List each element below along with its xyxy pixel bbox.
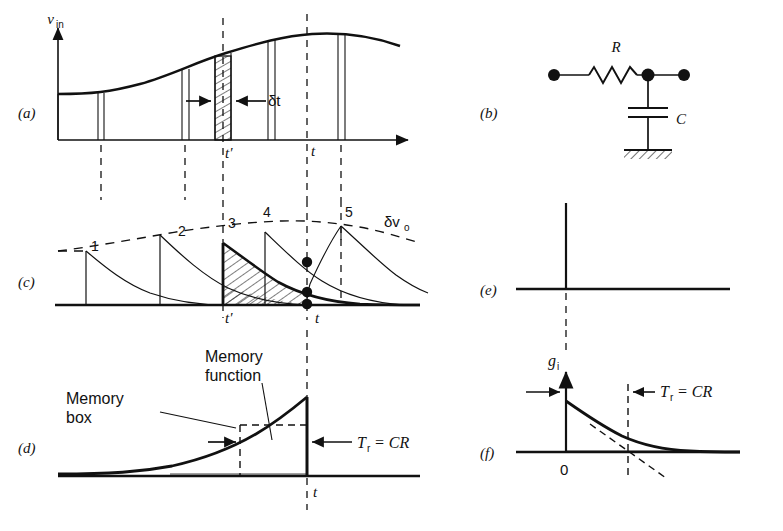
- panel-b-terminal-left: [548, 69, 560, 81]
- panel-a: v in δt t′ t (a): [18, 11, 408, 161]
- technical-figure-svg: v in δt t′ t (a) R C (b): [0, 0, 783, 531]
- panel-d-memory-function-label-line2: function: [205, 367, 261, 384]
- panel-c-sample-label-4: 4: [263, 204, 271, 220]
- panel-d-memory-box: [240, 425, 307, 476]
- figure-root: v in δt t′ t (a) R C (b): [0, 0, 783, 531]
- panel-b-resistor: [589, 67, 637, 83]
- panel-d-memory-box-label-line1: Memory: [66, 390, 124, 407]
- panel-c-decay-curve-1: [86, 251, 226, 305]
- panel-f-time-constant-sub: r: [670, 392, 674, 403]
- panel-d-memory-function-leader: [262, 383, 272, 440]
- panel-b-resistor-label: R: [610, 39, 620, 55]
- panel-a-tick-t: t: [311, 143, 316, 159]
- panel-f-time-constant-rhs: = CR: [677, 383, 712, 400]
- panel-f-y-axis-label: g: [548, 352, 556, 370]
- panel-a-tick-t-prime: t′: [225, 145, 233, 161]
- panel-d-time-constant-T: T: [357, 434, 367, 451]
- panel-d-id-label: (d): [18, 440, 36, 457]
- panel-c-sample-label-1: 1: [91, 238, 99, 254]
- panel-a-id-label: (a): [18, 105, 36, 122]
- panel-e: (e): [480, 203, 730, 330]
- panel-f-y-axis-sub: i: [557, 361, 559, 372]
- panel-f-origin-label: 0: [560, 461, 568, 478]
- panel-c-tick-t-prime: t′: [225, 310, 233, 326]
- panel-f: g i 0 T r = CR (f): [480, 352, 740, 478]
- panel-f-time-constant-T: T: [660, 383, 670, 400]
- panel-a-sample-dividers: [58, 33, 345, 140]
- panel-d: Memory box Memory function T r = CR t (d…: [18, 348, 420, 500]
- panel-c-sample-label-5: 5: [345, 204, 353, 220]
- panel-a-y-axis-label: v: [47, 11, 54, 27]
- panel-c-sample-label-2: 2: [178, 223, 186, 239]
- panel-e-id-label: (e): [480, 282, 497, 299]
- panel-c-envelope-label: δv: [384, 213, 400, 230]
- panel-c-envelope-sub: o: [404, 222, 410, 233]
- panel-d-time-constant-sub: r: [367, 443, 371, 454]
- panel-c-id-label: (c): [18, 274, 35, 291]
- panel-d-time-constant-rhs: = CR: [374, 434, 409, 451]
- panel-c-decay-curve-5: [341, 226, 428, 293]
- panel-f-impulse-response-curve: [566, 401, 740, 452]
- panel-d-memory-function-curve: [58, 397, 307, 474]
- panel-b: R C (b): [480, 39, 690, 159]
- panel-b-capacitor-label: C: [676, 111, 687, 127]
- panel-a-strip-label: δt: [268, 92, 281, 109]
- panel-c-envelope-curve: [58, 221, 420, 251]
- panel-b-ground-hatch-icon: [624, 150, 672, 159]
- panel-d-tick-t: t: [313, 484, 318, 500]
- panel-b-id-label: (b): [480, 105, 498, 122]
- panel-a-y-axis-sub: in: [56, 19, 64, 30]
- panel-c-tick-t: t: [315, 310, 320, 326]
- panel-b-terminal-right: [678, 69, 690, 81]
- panel-f-id-label: (f): [480, 445, 494, 462]
- panel-d-memory-box-label-line2: box: [66, 409, 92, 426]
- panel-d-memory-function-label-line1: Memory: [205, 348, 263, 365]
- panel-c-connector-line: [307, 226, 341, 301]
- panel-c-sample-label-3: 3: [228, 215, 236, 231]
- panel-d-memory-box-leader: [160, 412, 236, 428]
